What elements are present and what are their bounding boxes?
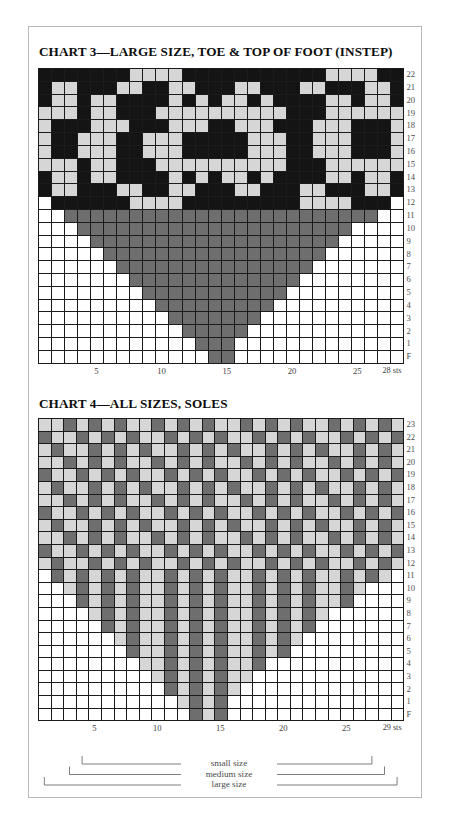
chart-cell bbox=[101, 469, 114, 482]
chart-cell bbox=[114, 507, 127, 520]
chart-cell bbox=[169, 209, 182, 222]
chart-cell bbox=[52, 235, 65, 248]
chart-cell bbox=[104, 261, 117, 274]
chart-cell bbox=[76, 444, 89, 457]
chart-cell bbox=[299, 171, 312, 184]
chart-cell bbox=[240, 419, 253, 432]
chart-cell bbox=[316, 670, 329, 683]
chart-cell bbox=[303, 645, 316, 658]
chart-cell bbox=[303, 670, 316, 683]
row-number: 7 bbox=[406, 262, 410, 271]
chart-cell bbox=[156, 171, 169, 184]
chart-cell bbox=[260, 222, 273, 235]
chart-cell bbox=[64, 469, 77, 482]
chart-cell bbox=[130, 222, 143, 235]
chart-cell bbox=[130, 299, 143, 312]
chart-cell bbox=[117, 350, 130, 363]
chart-cell bbox=[328, 507, 341, 520]
chart-cell bbox=[130, 261, 143, 274]
chart-cell bbox=[164, 645, 177, 658]
chart-cell bbox=[127, 708, 140, 721]
row-number: F bbox=[406, 710, 411, 719]
chart-cell bbox=[202, 595, 215, 608]
chart-cell bbox=[290, 607, 303, 620]
chart-cell bbox=[208, 350, 221, 363]
chart-cell bbox=[182, 94, 195, 107]
row-number: 17 bbox=[406, 134, 415, 143]
chart-cell bbox=[265, 658, 278, 671]
chart-cell bbox=[339, 171, 352, 184]
chart-cell bbox=[127, 557, 140, 570]
chart-cell bbox=[366, 557, 379, 570]
chart-cell bbox=[379, 696, 392, 709]
chart-cell bbox=[208, 107, 221, 120]
chart-cell bbox=[299, 312, 312, 325]
chart-cell bbox=[114, 582, 127, 595]
chart-cell bbox=[234, 299, 247, 312]
chart3-column-numbers: 28 sts252015105 bbox=[38, 367, 403, 379]
chart-cell bbox=[352, 120, 365, 133]
chart-cell bbox=[247, 69, 260, 82]
chart-cell bbox=[208, 209, 221, 222]
chart-cell bbox=[208, 235, 221, 248]
chart-cell bbox=[260, 235, 273, 248]
chart4-column-numbers: 29 sts252015105 bbox=[38, 724, 403, 736]
chart-cell bbox=[366, 544, 379, 557]
chart-cell bbox=[39, 274, 52, 287]
chart-cell bbox=[352, 94, 365, 107]
chart-cell bbox=[221, 94, 234, 107]
chart-cell bbox=[143, 325, 156, 338]
chart-cell bbox=[326, 299, 339, 312]
chart-cell bbox=[339, 197, 352, 210]
chart-cell bbox=[215, 481, 228, 494]
chart-cell bbox=[127, 431, 140, 444]
chart-cell bbox=[64, 708, 77, 721]
chart-cell bbox=[89, 469, 102, 482]
chart-cell bbox=[139, 658, 152, 671]
chart-cell bbox=[365, 299, 378, 312]
chart-cell bbox=[286, 120, 299, 133]
chart-cell bbox=[227, 696, 240, 709]
chart-cell bbox=[253, 708, 266, 721]
chart-cell bbox=[182, 248, 195, 261]
size-bracket-label: small size bbox=[181, 758, 277, 768]
chart-cell bbox=[91, 350, 104, 363]
chart4-grid bbox=[38, 418, 404, 721]
column-number: 10 bbox=[157, 367, 166, 376]
chart-cell bbox=[65, 325, 78, 338]
chart-cell bbox=[143, 338, 156, 351]
chart-cell bbox=[353, 708, 366, 721]
chart-cell bbox=[164, 431, 177, 444]
chart-cell bbox=[379, 607, 392, 620]
chart-cell bbox=[202, 469, 215, 482]
chart-cell bbox=[253, 570, 266, 583]
row-number: 4 bbox=[406, 301, 410, 310]
chart-cell bbox=[208, 286, 221, 299]
chart-cell bbox=[286, 145, 299, 158]
chart-cell bbox=[379, 645, 392, 658]
chart-cell bbox=[312, 350, 325, 363]
chart-cell bbox=[303, 582, 316, 595]
chart-cell bbox=[339, 158, 352, 171]
chart-cell bbox=[299, 120, 312, 133]
chart4-title: CHART 4—ALL SIZES, SOLES bbox=[39, 396, 228, 412]
chart-cell bbox=[339, 299, 352, 312]
chart-cell bbox=[169, 145, 182, 158]
chart-cell bbox=[127, 696, 140, 709]
chart-cell bbox=[89, 544, 102, 557]
chart-cell bbox=[190, 658, 203, 671]
chart-cell bbox=[78, 197, 91, 210]
chart-cell bbox=[190, 544, 203, 557]
chart-cell bbox=[78, 94, 91, 107]
chart-cell bbox=[182, 133, 195, 146]
chart-cell bbox=[278, 456, 291, 469]
chart-cell bbox=[290, 570, 303, 583]
chart-cell bbox=[114, 645, 127, 658]
chart-cell bbox=[215, 532, 228, 545]
chart-cell bbox=[143, 261, 156, 274]
chart-cell bbox=[130, 209, 143, 222]
chart-cell bbox=[290, 633, 303, 646]
chart-cell bbox=[240, 582, 253, 595]
chart-cell bbox=[76, 570, 89, 583]
column-number: 15 bbox=[222, 367, 231, 376]
